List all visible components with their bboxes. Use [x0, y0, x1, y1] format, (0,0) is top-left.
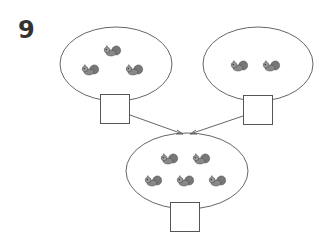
left-group-ellipse — [60, 27, 172, 101]
squirrel-icon — [209, 176, 225, 187]
right-answer-box[interactable] — [243, 95, 273, 125]
squirrel-icon — [177, 176, 193, 187]
squirrel-icon — [126, 65, 142, 76]
left-answer-box[interactable] — [100, 94, 130, 124]
number-bond-diagram — [0, 0, 334, 250]
right-group-ellipse — [203, 27, 313, 101]
squirrel-icon — [193, 154, 209, 165]
total-group-ellipse — [126, 133, 248, 209]
squirrel-icon — [82, 65, 98, 76]
squirrel-icon — [263, 61, 279, 72]
squirrel-icon — [145, 176, 161, 187]
squirrel-icon — [104, 46, 120, 57]
total-answer-box[interactable] — [170, 202, 200, 232]
squirrel-icon — [231, 61, 247, 72]
squirrel-icon — [161, 154, 177, 165]
